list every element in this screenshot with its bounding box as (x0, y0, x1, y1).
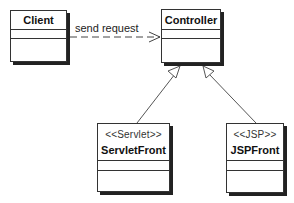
class-name: Controller (162, 14, 220, 27)
generalization-arrow-servlet (137, 66, 180, 123)
class-header: <<JSP>> JSPFront (227, 124, 283, 161)
class-name: JSPFront (227, 144, 283, 157)
class-client[interactable]: Client (10, 10, 67, 62)
attributes-compartment (11, 30, 66, 39)
class-name: ServletFront (98, 144, 169, 157)
operations-compartment (98, 171, 169, 191)
class-header: Controller (162, 10, 220, 30)
stereotype: <<JSP>> (227, 129, 283, 141)
attributes-compartment (227, 161, 283, 171)
class-header: Client (11, 11, 66, 30)
attributes-compartment (98, 161, 169, 171)
operations-compartment (11, 39, 66, 61)
operations-compartment (227, 171, 283, 192)
class-jsp-front[interactable]: <<JSP>> JSPFront (226, 123, 284, 193)
class-controller[interactable]: Controller (161, 9, 221, 63)
class-name: Client (11, 14, 66, 27)
stereotype: <<Servlet>> (98, 129, 169, 141)
operations-compartment (162, 39, 220, 62)
class-servlet-front[interactable]: <<Servlet>> ServletFront (97, 123, 170, 192)
generalization-arrow-jsp (203, 66, 256, 123)
class-header: <<Servlet>> ServletFront (98, 124, 169, 161)
attributes-compartment (162, 30, 220, 39)
dependency-label: send request (75, 22, 139, 34)
